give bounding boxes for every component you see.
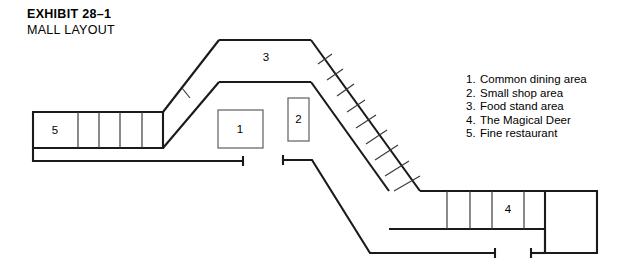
label-fine-restaurant: 5 <box>52 124 58 136</box>
legend-item-number: 1. <box>466 73 480 87</box>
lower-right-wing-group: 4 <box>389 191 545 229</box>
left-ramp-divider-1 <box>182 88 190 98</box>
top-corridor-group: 3 <box>219 40 311 82</box>
label-food-stand-area: 3 <box>263 51 269 63</box>
left-ramp-inner-wall <box>163 82 219 148</box>
walkway-left-wall <box>33 148 243 161</box>
legend-item: 4.The Magical Deer <box>466 114 587 128</box>
label-small-shop-area: 2 <box>295 113 301 125</box>
label-magical-deer: 4 <box>505 203 512 215</box>
legend-item-number: 4. <box>466 114 480 128</box>
right-ramp-divider-1 <box>318 54 332 64</box>
right-ramp-group <box>311 40 420 191</box>
legend-item-number: 5. <box>466 127 480 141</box>
legend-item-label: Common dining area <box>480 73 587 85</box>
exhibit-figure: EXHIBIT 28–1 MALL LAYOUT 5 3 <box>0 0 619 269</box>
left-ramp-group <box>163 40 219 148</box>
legend-item: 2.Small shop area <box>466 87 587 101</box>
right-ramp-outer-wall <box>311 40 420 191</box>
far-right-block-group <box>545 191 597 253</box>
legend-item-number: 3. <box>466 100 480 114</box>
legend-item: 1.Common dining area <box>466 73 587 87</box>
right-ramp-divider-3 <box>337 84 354 96</box>
legend-item-label: Fine restaurant <box>480 127 557 139</box>
right-ramp-divider-7 <box>375 145 398 160</box>
left-wing-group: 5 <box>33 112 163 148</box>
left-ramp-outer-wall <box>163 40 219 112</box>
legend-item-label: Small shop area <box>480 87 563 99</box>
legend-item-number: 2. <box>466 87 480 101</box>
right-ramp-divider-2 <box>327 69 343 80</box>
center-rooms-group: 1 2 <box>218 98 309 148</box>
legend-item: 3.Food stand area <box>466 100 587 114</box>
legend: 1.Common dining area 2.Small shop area 3… <box>466 73 587 141</box>
right-ramp-divider-9 <box>394 176 420 191</box>
walkway-group <box>33 148 545 258</box>
far-right-block-outline <box>545 191 597 253</box>
right-ramp-divider-8 <box>385 161 409 176</box>
label-common-dining-area: 1 <box>237 123 243 135</box>
legend-item-label: The Magical Deer <box>480 114 571 126</box>
legend-item: 5.Fine restaurant <box>466 127 587 141</box>
legend-item-label: Food stand area <box>480 100 564 112</box>
